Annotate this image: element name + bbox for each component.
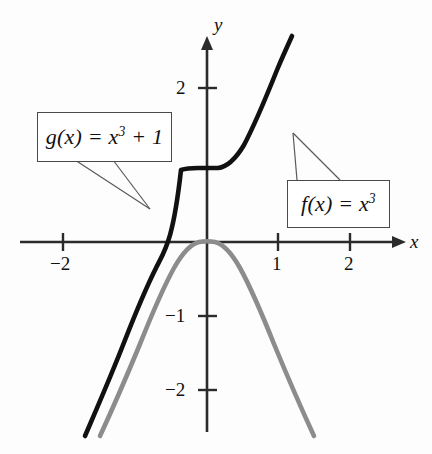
axes-group xyxy=(20,36,406,432)
leader-g-line-1 xyxy=(75,160,150,209)
leader-g-line-2 xyxy=(113,160,150,209)
y-axis-arrowhead xyxy=(201,36,213,50)
x-axis-arrowhead xyxy=(392,236,406,248)
equation-f: f(x) = x3 xyxy=(301,191,376,217)
callout-box-g: g(x) = x3 + 1 xyxy=(37,112,172,162)
y-tick-label-neg2: −2 xyxy=(165,379,185,401)
x-axis-label: x xyxy=(410,231,418,253)
leader-f-line-1 xyxy=(293,133,297,180)
callout-box-f: f(x) = x3 xyxy=(287,180,390,228)
equation-g-lhs: g(x) = xyxy=(46,124,103,149)
y-tick-label-neg1: −1 xyxy=(165,305,185,327)
x-tick-label-neg2: −2 xyxy=(50,253,70,275)
equation-f-lhs: f(x) = xyxy=(301,191,353,216)
equation-g-tail: + 1 xyxy=(131,124,163,149)
x-tick-label-2: 2 xyxy=(344,253,354,275)
y-axis-label: y xyxy=(214,14,222,36)
x-tick-label-1: 1 xyxy=(272,253,282,275)
equation-g-base: x xyxy=(109,124,119,149)
graph-figure: y x 2 −1 −2 −2 1 2 g(x) = x3 + 1 f(x) = … xyxy=(0,0,432,454)
equation-g: g(x) = x3 + 1 xyxy=(46,124,163,150)
equation-f-exponent: 3 xyxy=(369,191,376,206)
curve-g xyxy=(85,36,292,436)
leader-f-line-2 xyxy=(293,133,340,180)
equation-f-base: x xyxy=(359,191,369,216)
equation-g-exponent: 3 xyxy=(118,124,125,139)
y-tick-label-2: 2 xyxy=(176,77,186,99)
